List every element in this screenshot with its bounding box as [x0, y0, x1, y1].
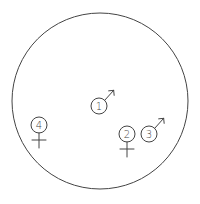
individual-label: 3 — [146, 129, 152, 140]
female-icon — [32, 133, 46, 148]
male-icon — [155, 118, 165, 128]
individual-label: 2 — [124, 129, 130, 140]
diagram-svg: 1 2 3 4 — [0, 0, 200, 204]
diagram-canvas: 1 2 3 4 — [0, 0, 200, 204]
female-icon — [120, 142, 134, 157]
individual-1: 1 — [91, 90, 114, 114]
individual-label: 4 — [36, 120, 42, 131]
individual-2: 2 — [119, 126, 135, 157]
individual-4: 4 — [31, 117, 47, 148]
male-icon — [105, 90, 115, 100]
individual-3: 3 — [141, 118, 164, 142]
individual-label: 1 — [96, 101, 102, 112]
